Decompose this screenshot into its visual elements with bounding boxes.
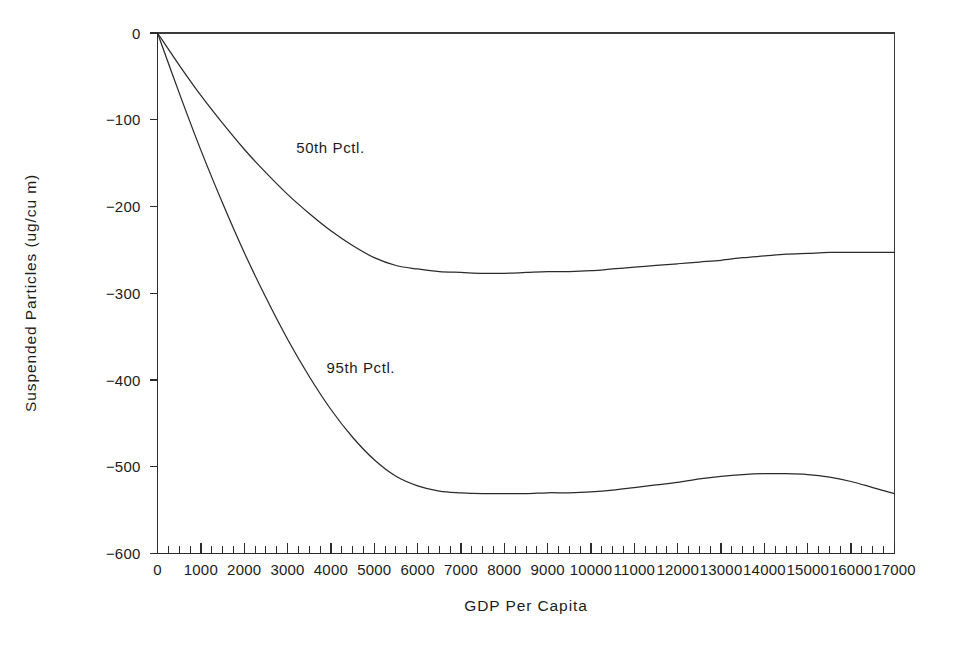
- x-tick-label: 12000: [656, 561, 699, 578]
- x-tick-label: 5000: [357, 561, 391, 578]
- plot-frame: [157, 33, 895, 553]
- series-label-2: 95th Pctl.: [327, 359, 396, 376]
- x-axis-tick-labels: 0100020003000400050006000700080009000100…: [153, 561, 916, 578]
- y-tick-label: −600: [106, 545, 141, 562]
- x-tick-label: 10000: [570, 561, 613, 578]
- x-tick-label: 4000: [314, 561, 348, 578]
- x-tick-label: 0: [153, 561, 162, 578]
- y-tick-label: −500: [106, 458, 141, 475]
- data-series-group: [158, 33, 895, 494]
- y-axis-title: Suspended Particles (ug/cu m): [22, 174, 39, 412]
- series-label-1: 50th Pctl.: [296, 139, 365, 156]
- x-tick-label: 15000: [786, 561, 829, 578]
- y-tick-label: −100: [106, 111, 141, 128]
- x-tick-label: 2000: [227, 561, 261, 578]
- y-tick-label: 0: [132, 25, 141, 42]
- x-tick-label: 7000: [444, 561, 478, 578]
- x-tick-label: 6000: [401, 561, 435, 578]
- series-line-2: [158, 33, 895, 494]
- x-tick-label: 17000: [873, 561, 916, 578]
- y-tick-label: −300: [106, 285, 141, 302]
- chart-figure: 0−100−200−300−400−500−600 01000200030004…: [0, 0, 956, 646]
- x-axis-minor-ticks: [158, 546, 895, 554]
- chart-canvas: 0−100−200−300−400−500−600 01000200030004…: [0, 0, 956, 646]
- y-tick-label: −400: [106, 372, 141, 389]
- y-tick-label: −200: [106, 198, 141, 215]
- series-line-1: [158, 33, 895, 273]
- x-tick-label: 14000: [743, 561, 786, 578]
- y-axis-tick-labels: 0−100−200−300−400−500−600: [106, 25, 141, 563]
- series-annotations: 50th Pctl.95th Pctl.: [296, 139, 395, 376]
- x-tick-label: 9000: [531, 561, 565, 578]
- x-tick-label: 11000: [614, 561, 656, 578]
- x-axis-title: GDP Per Capita: [464, 597, 587, 614]
- x-tick-label: 1000: [184, 561, 218, 578]
- x-tick-label: 3000: [270, 561, 304, 578]
- y-axis-ticks: [150, 33, 158, 554]
- x-tick-label: 13000: [700, 561, 743, 578]
- x-tick-label: 16000: [830, 561, 873, 578]
- x-tick-label: 8000: [487, 561, 521, 578]
